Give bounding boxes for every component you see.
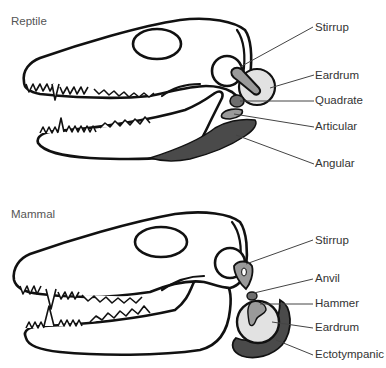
jaw-comparison-diagram: Reptile Stirrup Eardrum Quadrate Articul…	[0, 0, 386, 368]
mammal-label-anvil: Anvil	[315, 273, 340, 285]
mammal-stirrup-hole	[242, 268, 247, 276]
mammal-panel-title: Mammal	[11, 209, 55, 221]
mammal-label-eardrum: Eardrum	[315, 322, 359, 334]
mammal-label-stirrup: Stirrup	[315, 235, 349, 247]
mammal-anvil	[247, 292, 257, 300]
mammal-upper-skull	[14, 212, 247, 296]
mammal-label-hammer: Hammer	[315, 298, 359, 310]
mammal-eye-socket	[135, 227, 187, 257]
mammal-skull-drawing	[0, 0, 386, 368]
mammal-label-ectotympanic: Ectotympanic	[315, 349, 384, 361]
